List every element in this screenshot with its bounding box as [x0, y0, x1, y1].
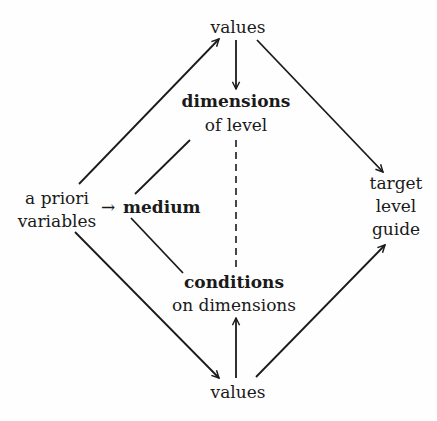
- diagram-canvas: values dimensions of level a priori vari…: [0, 0, 437, 421]
- node-conditions-line2: on dimensions: [172, 295, 296, 315]
- node-medium-arrow: →: [101, 197, 115, 217]
- node-target-line2: level: [376, 196, 417, 216]
- node-apriori-line1: a priori: [25, 188, 89, 208]
- node-apriori-line2: variables: [17, 211, 97, 231]
- edge-medium-to-conditions: [131, 218, 183, 273]
- node-conditions-line1: conditions: [184, 272, 284, 292]
- node-values-top: values: [210, 17, 266, 37]
- diagram-svg: values dimensions of level a priori vari…: [0, 0, 437, 421]
- node-dimensions-line2: of level: [205, 115, 268, 135]
- node-medium: medium: [123, 197, 201, 217]
- node-dimensions-line1: dimensions: [182, 91, 291, 111]
- edge-medium-to-dimensions: [135, 140, 190, 194]
- node-target-line3: guide: [372, 219, 420, 239]
- node-values-bottom: values: [210, 382, 266, 402]
- edge-apriori-to-values-top: [79, 39, 219, 184]
- node-target-line1: target: [370, 173, 423, 193]
